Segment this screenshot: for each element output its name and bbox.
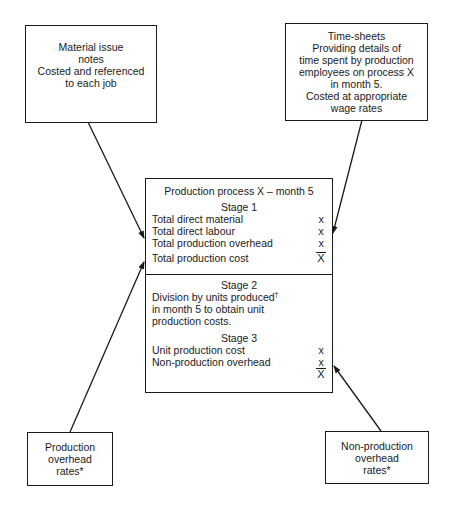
stage2-line3: production costs. bbox=[146, 315, 332, 327]
row-value: x bbox=[316, 356, 326, 368]
stage2-line1-text: Division by units produced bbox=[152, 291, 275, 303]
arrow-material-to-process bbox=[88, 122, 144, 238]
stage1-section: Production process X – month 5 Stage 1 T… bbox=[146, 179, 332, 275]
material-issue-notes-box: Material issue notes Costed and referenc… bbox=[25, 25, 157, 123]
stage2-3-section: Stage 2 Division by units produced† in m… bbox=[146, 274, 332, 392]
time-sheets-text: Time-sheets Providing details of time sp… bbox=[299, 30, 414, 114]
arrow-production-overhead-to-process bbox=[70, 262, 144, 432]
row-label: Total production cost bbox=[152, 252, 248, 264]
process-title: Production process X – month 5 bbox=[146, 185, 332, 197]
stage1-row: Total direct labour x bbox=[146, 225, 332, 237]
stage1-total-row: Total production cost X bbox=[146, 252, 332, 264]
stage3-heading: Stage 3 bbox=[146, 332, 332, 344]
production-overhead-rates-box: Production overhead rates* bbox=[27, 432, 113, 486]
stage2-line2: in month 5 to obtain unit bbox=[146, 303, 332, 315]
row-label: Unit production cost bbox=[152, 344, 245, 356]
row-label: Total production overhead bbox=[152, 237, 273, 249]
row-value: x bbox=[316, 213, 326, 225]
row-value: x bbox=[316, 344, 326, 356]
stage2-heading: Stage 2 bbox=[146, 279, 332, 291]
row-label: Total direct labour bbox=[152, 225, 235, 237]
row-total-value: X bbox=[316, 252, 326, 264]
production-process-box: Production process X – month 5 Stage 1 T… bbox=[145, 178, 333, 393]
row-total-value: X bbox=[316, 368, 326, 380]
non-production-overhead-rates-box: Non-production overhead rates* bbox=[325, 431, 429, 484]
row-label: Non-production overhead bbox=[152, 356, 271, 368]
stage3-row: Unit production cost x bbox=[146, 344, 332, 356]
dagger-footnote-mark: † bbox=[275, 291, 279, 298]
stage1-row: Total direct material x bbox=[146, 213, 332, 225]
material-issue-notes-text: Material issue notes Costed and referenc… bbox=[38, 41, 145, 89]
stage1-heading: Stage 1 bbox=[146, 201, 332, 213]
non-production-overhead-rates-text: Non-production overhead rates* bbox=[341, 440, 413, 476]
stage1-row: Total production overhead x bbox=[146, 237, 332, 249]
arrow-nonproduction-overhead-to-process bbox=[334, 366, 381, 431]
arrow-timesheets-to-process bbox=[333, 120, 362, 233]
row-value: x bbox=[316, 225, 326, 237]
stage3-total-row: X bbox=[146, 368, 332, 380]
stage3-row: Non-production overhead x bbox=[146, 356, 332, 368]
time-sheets-box: Time-sheets Providing details of time sp… bbox=[285, 23, 428, 121]
stage2-line1: Division by units produced† bbox=[146, 291, 332, 303]
row-value: x bbox=[316, 237, 326, 249]
row-label: Total direct material bbox=[152, 213, 243, 225]
production-overhead-rates-text: Production overhead rates* bbox=[45, 441, 95, 477]
